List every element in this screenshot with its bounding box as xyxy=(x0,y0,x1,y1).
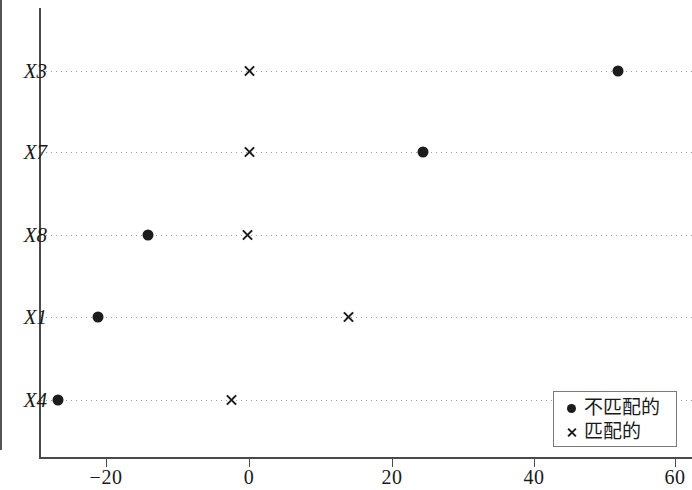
data-point-x3-matched xyxy=(243,65,256,78)
data-point-x1-matched xyxy=(342,311,355,324)
x-tick-label-20: 20 xyxy=(382,466,403,489)
x-tick-label-40: 40 xyxy=(524,466,545,489)
x-tick-label-60: 60 xyxy=(665,466,686,489)
legend-label-matched: 匹配的 xyxy=(584,421,641,443)
chart-legend: 不匹配的 匹配的 xyxy=(553,391,677,447)
data-point-x7-unmatched xyxy=(417,147,428,158)
gridline-x3 xyxy=(41,71,692,72)
y-axis-label-x8: X8 xyxy=(0,223,47,248)
legend-label-unmatched: 不匹配的 xyxy=(584,397,660,419)
x-axis-spine xyxy=(39,457,692,459)
data-point-x8-matched xyxy=(241,229,254,242)
data-point-x8-unmatched xyxy=(143,230,154,241)
data-point-x1-unmatched xyxy=(92,312,103,323)
y-axis-label-x4: X4 xyxy=(0,388,47,413)
data-point-x4-matched xyxy=(225,394,238,407)
gridline-x8 xyxy=(41,235,692,236)
dotplot-chart: −20 0 20 40 60 X3 X7 X8 X1 X4 不匹配的 匹配的 xyxy=(0,0,692,490)
y-axis-label-x1: X1 xyxy=(0,305,47,330)
x-tick-label--20: −20 xyxy=(90,466,123,489)
legend-entry-matched: 匹配的 xyxy=(554,420,676,444)
data-point-x7-matched xyxy=(243,146,256,159)
gridline-x1 xyxy=(41,317,692,318)
cross-marker-icon xyxy=(562,422,584,442)
data-point-x4-unmatched xyxy=(53,395,64,406)
dot-marker-icon xyxy=(562,398,584,418)
gridline-x7 xyxy=(41,152,692,153)
legend-entry-unmatched: 不匹配的 xyxy=(554,396,676,420)
y-axis-label-x3: X3 xyxy=(0,59,47,84)
y-axis-label-x7: X7 xyxy=(0,140,47,165)
data-point-x3-unmatched xyxy=(613,66,624,77)
x-tick-label-0: 0 xyxy=(244,466,255,489)
